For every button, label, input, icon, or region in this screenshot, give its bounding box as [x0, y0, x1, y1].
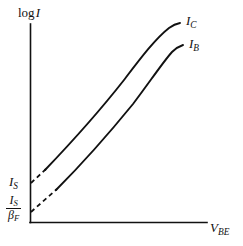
y-axis-title: logI — [18, 6, 40, 19]
denominator-subscript: F — [14, 213, 19, 223]
collector-current-label: IC — [186, 14, 197, 30]
collector-curve-dashed-extrapolation — [31, 169, 46, 183]
plot-canvas — [0, 0, 243, 246]
is-label-subscript: S — [13, 181, 18, 191]
fraction-numerator: IS — [7, 194, 19, 208]
collector-current-curve — [45, 23, 180, 170]
x-axis-title: VBE — [210, 221, 229, 237]
saturation-over-beta-label: IS βF — [6, 194, 21, 223]
saturation-current-label: IS — [9, 175, 18, 191]
fraction-denominator: βF — [6, 209, 21, 223]
base-curve-dashed-extrapolation — [31, 189, 57, 212]
y-axis-title-current: I — [35, 5, 40, 20]
numerator-subscript: S — [13, 198, 17, 208]
x-axis-title-subscript: BE — [218, 227, 229, 237]
base-label-subscript: B — [193, 43, 199, 53]
y-axis-title-log: log — [18, 5, 35, 20]
transistor-gummel-plot-figure: logI VBE IC IB IS IS βF — [0, 0, 243, 246]
base-current-label: IB — [189, 37, 199, 53]
base-current-curve — [56, 45, 183, 190]
collector-label-subscript: C — [190, 20, 196, 30]
x-axis-title-var: V — [210, 220, 218, 235]
